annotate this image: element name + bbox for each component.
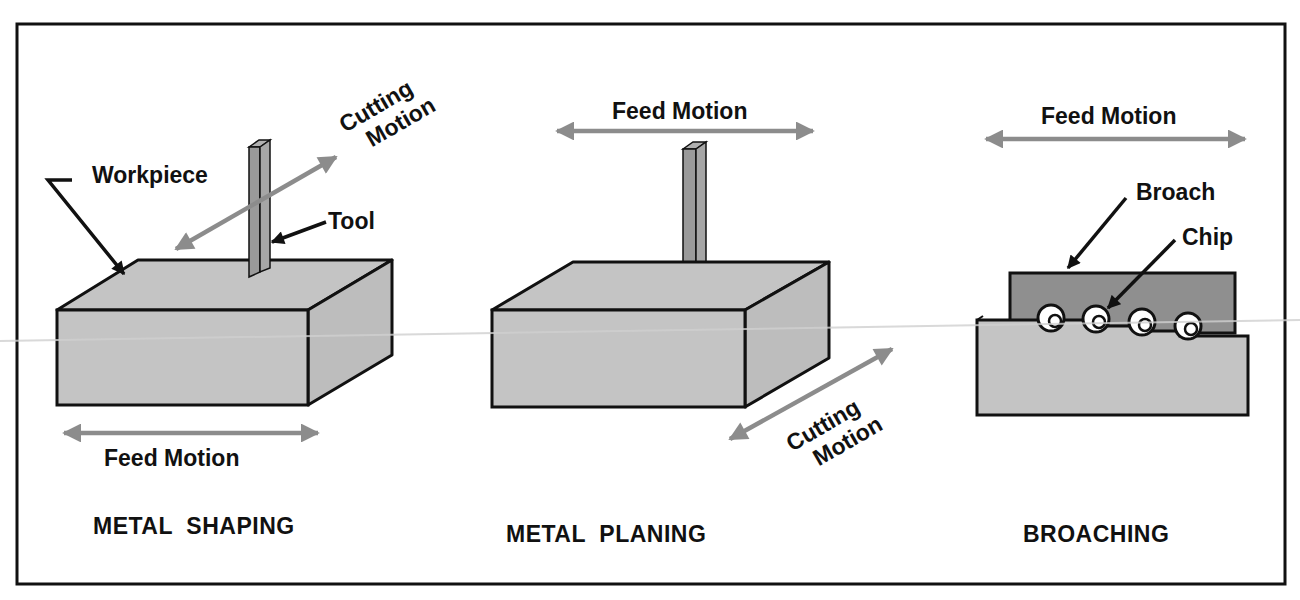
broaching-feed-motion-label: Feed Motion — [1041, 103, 1176, 129]
broach-leader — [1068, 198, 1126, 268]
chip-label: Chip — [1182, 224, 1233, 250]
chip-icon — [1175, 313, 1201, 339]
planing-panel-title: METAL PLANING — [506, 521, 706, 547]
shaping-cutting-motion-label: Cutting Motion — [335, 69, 440, 160]
shaping-tool-leader — [272, 222, 326, 242]
shaping-tool — [249, 140, 270, 277]
panel-metal-planing: Feed Motion Cutting Motion METAL PLANING — [492, 98, 892, 547]
chip-icon — [1038, 305, 1064, 331]
shaping-workpiece-leader — [48, 180, 124, 274]
broach-label: Broach — [1136, 179, 1215, 205]
shaping-block-front-face — [57, 310, 308, 405]
shaping-tool-label: Tool — [328, 208, 375, 234]
chip-icon — [1083, 306, 1109, 332]
shaping-feed-motion-label: Feed Motion — [104, 445, 239, 471]
machining-processes-diagram: Cutting Motion Workpiece Tool Feed Motio… — [0, 0, 1300, 600]
planing-feed-motion-label: Feed Motion — [612, 98, 747, 124]
shaping-workpiece-label: Workpiece — [92, 162, 208, 188]
planing-block-front-face — [492, 310, 745, 407]
planing-workpiece-block — [492, 262, 829, 407]
shaping-panel-title: METAL SHAPING — [93, 513, 295, 539]
shaping-workpiece-block — [57, 260, 392, 405]
broaching-panel-title: BROACHING — [1023, 521, 1169, 547]
planing-tool — [683, 142, 706, 278]
panel-metal-shaping: Cutting Motion Workpiece Tool Feed Motio… — [48, 69, 440, 539]
